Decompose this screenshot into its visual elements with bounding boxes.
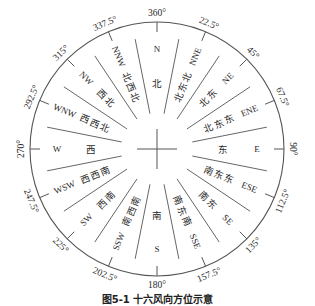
tick-mark	[240, 232, 247, 239]
direction-abbr-e: E	[254, 144, 260, 154]
degree-label: 90°	[288, 142, 298, 156]
direction-chinese-s: 南	[152, 210, 162, 221]
tick-mark	[40, 100, 49, 104]
direction-abbr-se: SE	[220, 212, 235, 227]
direction-chinese-ne: 东北	[197, 86, 220, 109]
figure-caption: 图5-1 十六风向方位示意	[0, 291, 315, 306]
direction-chinese-n: 北	[152, 78, 162, 89]
tick-mark	[67, 232, 74, 239]
direction-chinese-sw: 西南	[94, 189, 117, 212]
degree-label: 157.5°	[195, 265, 222, 284]
direction-abbr-ssw: SSW	[111, 230, 128, 251]
direction-chinese-w: 西	[86, 144, 96, 155]
degree-label: 337.5°	[91, 14, 118, 33]
tick-mark	[108, 32, 112, 41]
direction-abbr-s: S	[154, 244, 159, 254]
sector-divider	[135, 184, 150, 259]
svg-text:北: 北	[152, 78, 162, 89]
svg-text:东: 东	[218, 144, 228, 155]
tick-mark	[108, 257, 112, 266]
degree-label: 45°	[245, 45, 262, 62]
sector-divider	[47, 156, 122, 171]
center-crosshair	[137, 129, 177, 169]
direction-abbr-nnw: NNW	[110, 45, 128, 69]
degree-label: 270°	[16, 140, 26, 158]
direction-abbr-wsw: WSW	[53, 178, 78, 196]
degree-label: 202.5°	[91, 265, 118, 284]
direction-abbr-n: N	[154, 44, 161, 54]
svg-text:南: 南	[152, 210, 162, 221]
degree-label: 292.5°	[22, 83, 41, 110]
direction-abbr-nne: NNE	[187, 46, 204, 67]
direction-abbr-sw: SW	[78, 211, 95, 228]
direction-abbr-wnw: WNW	[52, 102, 78, 120]
direction-abbr-nw: NW	[77, 69, 95, 87]
tick-mark	[202, 257, 206, 266]
tick-mark	[202, 32, 206, 41]
direction-chinese-nw: 西北	[94, 86, 117, 109]
direction-abbr-ese: ESE	[240, 180, 259, 196]
tick-mark	[67, 59, 74, 66]
svg-text:西: 西	[86, 144, 96, 155]
direction-chinese-se: 东南	[197, 189, 220, 212]
tick-mark	[265, 194, 274, 198]
direction-abbr-ne: NE	[220, 70, 236, 86]
direction-chinese-e: 东	[218, 144, 228, 155]
tick-mark	[40, 194, 49, 198]
direction-abbr-sse: SSE	[188, 232, 203, 251]
sector-divider	[135, 39, 150, 114]
direction-abbr-ene: ENE	[239, 103, 259, 119]
degree-label: 247.5°	[22, 187, 41, 214]
tick-mark	[265, 100, 274, 104]
direction-abbr-w: W	[53, 144, 62, 154]
tick-mark	[240, 59, 247, 66]
degree-label: 360°	[148, 8, 166, 18]
degree-label: 180°	[148, 280, 166, 290]
sector-divider	[47, 127, 122, 142]
